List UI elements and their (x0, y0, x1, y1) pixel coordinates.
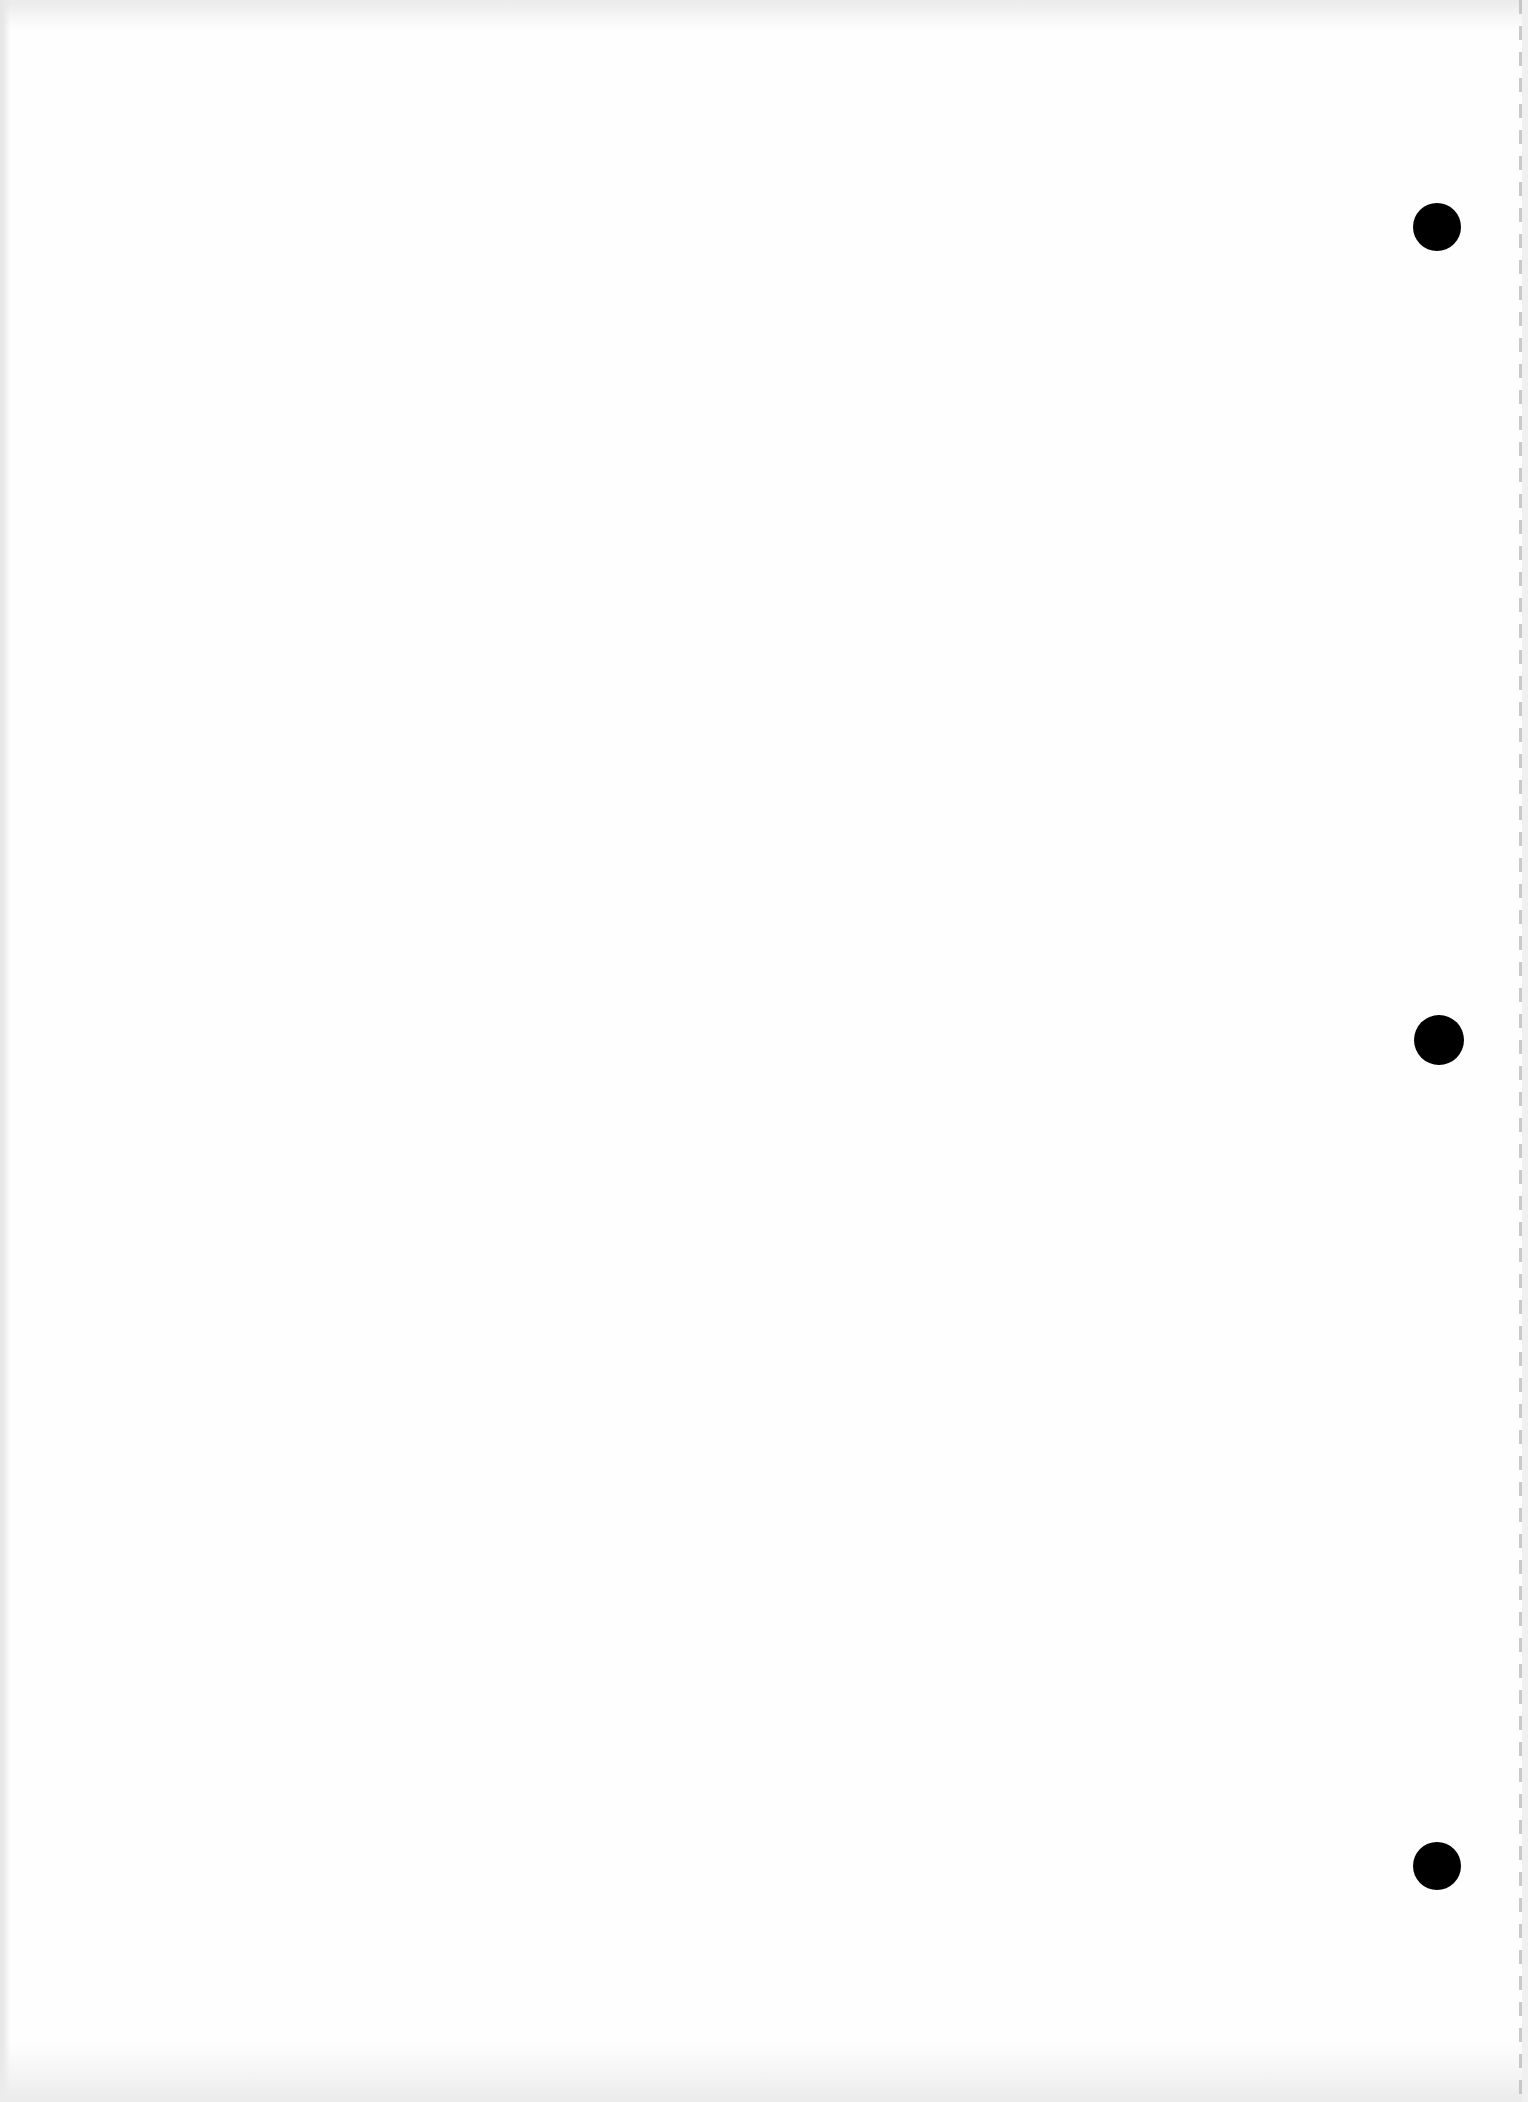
scanned-page (0, 0, 1528, 2102)
perforation-line (1519, 0, 1522, 2102)
punch-hole-bottom (1413, 1842, 1461, 1890)
scan-edge-bottom (0, 2042, 1528, 2102)
punch-hole-top (1413, 203, 1461, 251)
punch-hole-middle (1414, 1015, 1464, 1065)
scan-edge-left (0, 0, 10, 2102)
page-edge-right (1522, 0, 1528, 2102)
scan-edge-top (0, 0, 1528, 30)
